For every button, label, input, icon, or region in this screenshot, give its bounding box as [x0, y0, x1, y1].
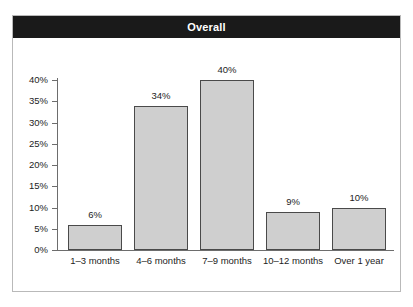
y-tick-mark: [52, 144, 58, 145]
y-tick-label: 0%: [14, 245, 48, 255]
bar: [68, 225, 122, 251]
category-label: 1–3 months: [62, 256, 128, 266]
y-tick-label: 35%: [14, 96, 48, 106]
chart-title-bar: Overall: [13, 16, 400, 38]
y-tick-label: 10%: [14, 203, 48, 213]
category-label: Over 1 year: [326, 256, 392, 266]
y-tick-label: 25%: [14, 139, 48, 149]
bar: [134, 106, 188, 251]
chart-title: Overall: [187, 22, 226, 33]
y-tick-label: 20%: [14, 160, 48, 170]
y-tick-label: 5%: [14, 224, 48, 234]
bar-value-label: 34%: [134, 91, 188, 101]
category-label: 10–12 months: [260, 256, 326, 266]
bar: [332, 208, 386, 251]
bar-value-label: 10%: [332, 193, 386, 203]
bar: [266, 212, 320, 250]
y-tick-label: 15%: [14, 181, 48, 191]
y-tick-mark: [52, 208, 58, 209]
chart-figure: Overall 0%5%10%15%20%25%30%35%40% 6%34%4…: [0, 0, 413, 307]
y-tick-mark: [52, 229, 58, 230]
bar: [200, 80, 254, 250]
y-tick-label: 30%: [14, 118, 48, 128]
y-tick-mark: [52, 186, 58, 187]
y-tick-mark: [52, 80, 58, 81]
y-tick-mark: [52, 250, 58, 251]
bar-value-label: 6%: [68, 210, 122, 220]
category-label: 4–6 months: [128, 256, 194, 266]
bar-value-label: 40%: [200, 65, 254, 75]
y-tick-label: 40%: [14, 75, 48, 85]
y-tick-mark: [52, 123, 58, 124]
y-tick-mark: [52, 165, 58, 166]
bar-value-label: 9%: [266, 197, 320, 207]
y-tick-mark: [52, 101, 58, 102]
category-label: 7–9 months: [194, 256, 260, 266]
x-axis-line: [57, 250, 394, 251]
